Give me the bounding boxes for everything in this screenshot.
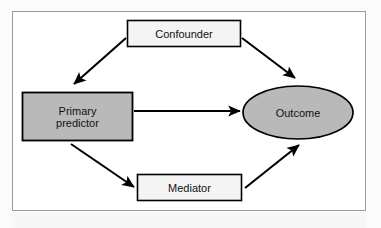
node-confounder — [128, 21, 241, 47]
edge-primary-predictor-to-mediator — [71, 144, 134, 187]
diagram-canvas — [0, 0, 381, 228]
node-primary-predictor — [23, 93, 133, 141]
diagram-root: Confounder Primary predictor Outcome Med… — [0, 0, 381, 228]
node-outcome — [243, 86, 353, 139]
edge-confounder-to-outcome — [242, 38, 295, 78]
edge-mediator-to-outcome — [245, 145, 299, 188]
node-mediator — [138, 175, 242, 201]
edge-confounder-to-primary-predictor — [74, 38, 126, 84]
